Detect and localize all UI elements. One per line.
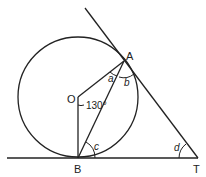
label-angle-c: c [94, 141, 99, 152]
label-a-point: A [126, 50, 134, 62]
angle-arc-d [179, 144, 186, 158]
label-angle-a: a [108, 73, 114, 84]
label-angle-b: b [124, 77, 130, 88]
radius-oa [78, 61, 124, 97]
label-o-point: O [67, 93, 76, 105]
diagram-canvas: A B O T a b c d 130° [0, 0, 206, 177]
geometry-diagram: A B O T a b c d 130° [0, 0, 206, 177]
label-angle-d: d [174, 142, 180, 153]
tangent-line-at [85, 8, 198, 158]
label-t-point: T [193, 163, 200, 175]
label-b-point: B [74, 163, 81, 175]
label-center-angle: 130° [86, 100, 107, 111]
angle-arc-130 [78, 105, 84, 106]
